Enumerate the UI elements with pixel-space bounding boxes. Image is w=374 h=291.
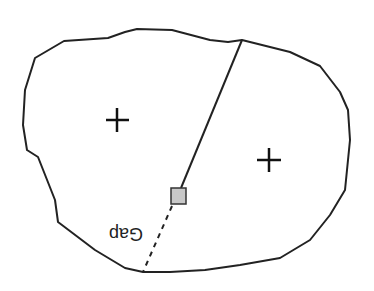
right-plus-icon <box>257 148 281 172</box>
junction-node <box>171 188 186 204</box>
outer-boundary <box>23 29 350 272</box>
gap-dashed-line <box>143 206 172 272</box>
diagram-canvas: Gap <box>0 0 374 291</box>
gap-label: Gap <box>109 224 143 244</box>
dividing-line <box>181 40 242 188</box>
left-plus-icon <box>106 108 129 132</box>
